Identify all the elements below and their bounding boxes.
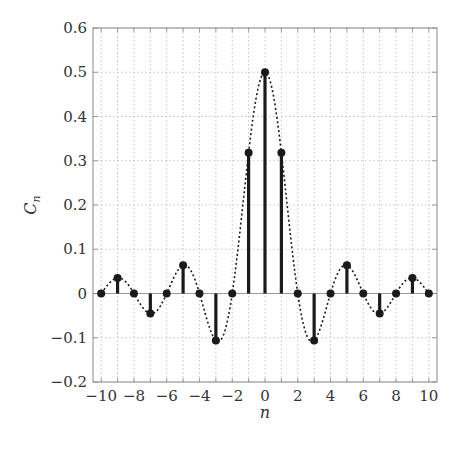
x-tick-label: −10 — [85, 387, 117, 405]
stem-marker — [195, 290, 203, 298]
stem-marker — [327, 290, 335, 298]
stem-marker — [294, 290, 302, 298]
x-tick-label: 2 — [293, 387, 303, 405]
y-tick-label: 0 — [77, 285, 87, 303]
stem-marker — [359, 290, 367, 298]
y-tick-label: 0.2 — [63, 196, 87, 214]
stem-marker — [408, 274, 416, 282]
stem-marker — [343, 261, 351, 269]
y-tick-label: 0.5 — [63, 63, 87, 81]
stem-marker — [212, 336, 220, 344]
x-tick-label: 6 — [359, 387, 369, 405]
stem-marker — [310, 336, 318, 344]
y-tick-label: 0.6 — [63, 19, 87, 37]
y-tick-label: 0.1 — [63, 240, 87, 258]
stem-plot: −10−8−6−4−20246810 −0.2−0.100.10.20.30.4… — [0, 0, 458, 450]
stem-marker — [114, 274, 122, 282]
y-tick-label: 0.4 — [63, 108, 87, 126]
stem-marker — [376, 309, 384, 317]
y-tick-label: −0.2 — [51, 373, 87, 391]
stem-marker — [179, 261, 187, 269]
stem-marker — [163, 290, 171, 298]
y-axis-ticks: −0.2−0.100.10.20.30.40.50.6 — [51, 19, 87, 391]
x-tick-label: 4 — [326, 387, 336, 405]
stem-marker — [130, 290, 138, 298]
x-axis-label: n — [260, 403, 270, 422]
stem-marker — [261, 68, 269, 76]
y-axis-label: Cn — [21, 195, 43, 214]
stem-marker — [392, 290, 400, 298]
stem-marker — [245, 149, 253, 157]
stem-marker — [97, 290, 105, 298]
stem-marker — [146, 309, 154, 317]
x-tick-label: 10 — [419, 387, 438, 405]
stem-marker — [277, 149, 285, 157]
x-tick-label: −8 — [123, 387, 145, 405]
y-tick-label: 0.3 — [63, 152, 87, 170]
x-tick-label: −2 — [221, 387, 243, 405]
x-tick-label: −6 — [156, 387, 178, 405]
x-tick-label: −4 — [188, 387, 210, 405]
y-axis-label-text: Cn — [21, 195, 43, 214]
y-tick-label: −0.1 — [51, 329, 87, 347]
stem-series — [97, 68, 433, 344]
stem-marker — [425, 290, 433, 298]
x-tick-label: 8 — [391, 387, 401, 405]
stem-marker — [228, 290, 236, 298]
